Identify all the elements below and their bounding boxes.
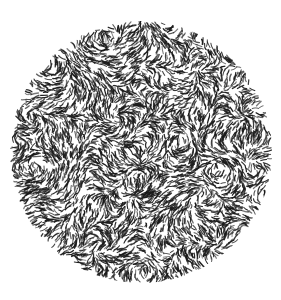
stimulus-figure: Circular aperture filled with a dense ra…	[0, 0, 281, 300]
texture-disk-canvas	[0, 0, 281, 300]
